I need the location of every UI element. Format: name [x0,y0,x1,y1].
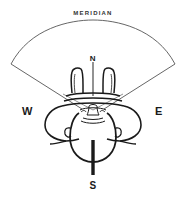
left-arm-outline [71,68,83,94]
left-torso-edge [50,141,66,144]
shoulder-band-middle [64,98,122,101]
head-outline [70,113,116,162]
right-arm-inner-line [111,74,112,93]
west-label: W [22,105,33,117]
meridian-orientation-diagram: MERIDIAN N S W E [0,0,186,201]
diagram-canvas [0,0,186,201]
left-eye [81,111,86,113]
right-eye [100,111,105,113]
left-arm-inner-line [74,74,75,93]
east-label: E [155,105,163,117]
north-label: N [0,54,186,63]
south-label: S [0,180,186,191]
right-torso-edge [120,141,136,144]
right-arm-outline [103,68,115,94]
meridian-label: MERIDIAN [0,10,186,16]
